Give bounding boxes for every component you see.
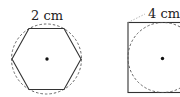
square [128,23,180,93]
square-center-dot [161,57,164,60]
hexagon-figure: 2 cm [12,8,82,94]
hexagon-center-dot [45,57,48,60]
square-figure: 4 cm [128,6,180,93]
square-side-label: 4 cm [148,6,180,21]
geometry-diagram: 2 cm 4 cm [0,0,180,97]
label-leader-line [128,14,145,23]
square-incircle [128,23,180,93]
hexagon-side-label: 2 cm [31,8,63,23]
